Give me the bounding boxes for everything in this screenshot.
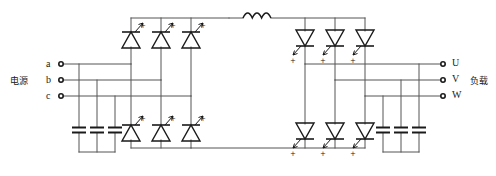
terminal-w — [441, 94, 445, 98]
thyristor-inverter-lower-w — [353, 123, 374, 148]
gate-polarity-marks: + + + + + + + + + + + + — [140, 22, 356, 158]
terminal-u — [441, 62, 445, 66]
svg-text:+: + — [350, 57, 356, 65]
source-label: 电源 — [10, 74, 28, 87]
capacitor-input-c — [108, 128, 122, 133]
svg-text:+: + — [200, 22, 206, 30]
terminal-label-u: U — [452, 57, 459, 68]
thyristor-inverter-upper-w — [353, 30, 374, 55]
dc-link-inductor — [243, 13, 271, 18]
thyristor-inverter-lower-u — [293, 123, 314, 148]
svg-text:+: + — [140, 115, 146, 123]
terminal-label-c: c — [46, 90, 50, 101]
terminal-b — [59, 78, 63, 82]
thyristor-inverter-upper-v — [323, 30, 344, 55]
circuit-diagram: + + + + + + + + + + + + 电源 — [0, 0, 496, 176]
svg-text:+: + — [170, 115, 176, 123]
terminal-a — [59, 62, 63, 66]
terminal-label-a: a — [46, 58, 50, 69]
svg-text:+: + — [320, 57, 326, 65]
svg-text:+: + — [170, 22, 176, 30]
schematic-canvas: + + + + + + + + + + + + — [0, 0, 496, 176]
svg-text:+: + — [290, 57, 296, 65]
capacitor-input-a — [72, 128, 86, 133]
capacitor-output-w — [376, 128, 390, 133]
capacitor-output-u — [412, 128, 426, 133]
svg-text:+: + — [320, 150, 326, 158]
thyristor-inverter-upper-u — [293, 30, 314, 55]
terminal-c — [59, 94, 63, 98]
svg-text:+: + — [140, 22, 146, 30]
terminal-label-v: V — [452, 73, 459, 84]
svg-text:+: + — [200, 115, 206, 123]
terminal-label-b: b — [46, 74, 51, 85]
svg-text:+: + — [290, 150, 296, 158]
capacitor-input-b — [90, 128, 104, 133]
load-label: 负载 — [470, 74, 488, 87]
thyristor-inverter-lower-v — [323, 123, 344, 148]
terminal-label-w: W — [452, 89, 461, 100]
svg-text:+: + — [350, 150, 356, 158]
capacitor-output-v — [394, 128, 408, 133]
terminal-v — [441, 78, 445, 82]
